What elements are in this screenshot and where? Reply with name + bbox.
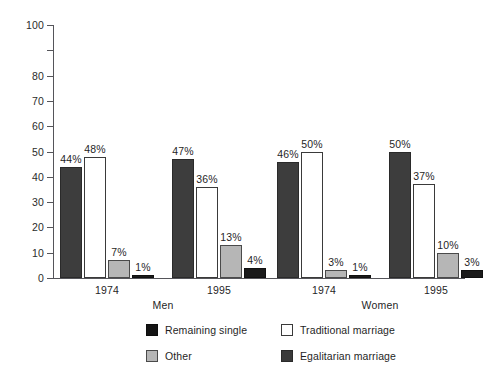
bar [301,152,323,279]
y-axis-tick [47,50,53,51]
x-axis-year-label: 1995 [389,284,483,296]
legend-swatch-icon [146,350,158,362]
y-axis-tick [47,25,53,26]
bar [108,260,130,278]
y-axis-tick-label-text: 60 [14,121,44,131]
x-axis-year-label: 1995 [172,284,266,296]
y-axis-tick-label-text: 0 [14,273,44,283]
bar-chart: 01020304050607080100 44%47%46%50%48%36%5… [0,0,493,382]
y-axis-tick-label: 40 [8,172,44,182]
bar [60,167,82,278]
y-axis-tick [47,177,53,178]
bar-value-label: 10% [434,240,462,251]
bar-value-label: 36% [193,174,221,185]
y-axis-tick-label: 10 [8,248,44,258]
legend-item: Traditional marriage [281,324,395,336]
legend-item: Egalitarian marriage [281,350,396,362]
legend-label: Egalitarian marriage [300,350,396,362]
bar [437,253,459,278]
bar-value-label: 50% [386,139,414,150]
bar-value-label: 3% [458,257,486,268]
plot-area: 01020304050607080100 44%47%46%50%48%36%5… [0,0,493,300]
y-axis-tick [47,76,53,77]
y-axis-tick [47,202,53,203]
bar-value-label: 44% [57,154,85,165]
bar [389,152,411,279]
bar [277,162,299,278]
y-axis-tick-label-text: 70 [14,96,44,106]
y-axis-tick [47,152,53,153]
bar-value-label: 4% [241,255,269,266]
y-axis-tick-label: 0 [8,273,44,283]
legend-label: Remaining single [165,324,247,336]
y-axis-tick-label: 80 [8,71,44,81]
bar [244,268,266,278]
y-axis-tick-label-text: 40 [14,172,44,182]
x-axis-line [53,278,465,279]
y-axis-tick-label: 100 [8,20,44,30]
x-axis-supergroup-label: Men [60,299,266,311]
bar-value-label: 46% [274,149,302,160]
bar [172,159,194,278]
bar [220,245,242,278]
bar [461,270,483,278]
bar-value-label: 48% [81,144,109,155]
y-axis-tick-label-text: 50 [14,147,44,157]
legend-swatch-icon [281,324,293,336]
legend-item: Other [146,350,192,362]
y-axis-tick-label-text: 80 [14,71,44,81]
bar-value-label: 1% [129,262,157,273]
legend-label: Traditional marriage [300,324,395,336]
bar-value-label: 47% [169,146,197,157]
y-axis-line [53,25,54,278]
bar [196,187,218,278]
y-axis-tick-label-text: 30 [14,197,44,207]
y-axis-tick-label-text: 100 [14,20,44,30]
bar-value-label: 7% [105,247,133,258]
chart-legend: Remaining singleTraditional marriageOthe… [0,322,493,382]
bar-value-label: 1% [346,262,374,273]
y-axis-tick-label-text: 20 [14,222,44,232]
x-axis-year-label: 1974 [60,284,154,296]
x-axis-supergroup-label: Women [277,299,483,311]
bar [325,270,347,278]
y-axis-tick [47,278,53,279]
y-axis-tick-label: 20 [8,222,44,232]
y-axis-tick-label: 70 [8,96,44,106]
y-axis-tick-label: 30 [8,197,44,207]
y-axis-tick [47,227,53,228]
y-axis-tick-label: 60 [8,121,44,131]
y-axis-tick [47,126,53,127]
x-axis-year-label: 1974 [277,284,371,296]
y-axis-tick [47,253,53,254]
y-axis-tick-label: 50 [8,147,44,157]
bar-value-label: 13% [217,232,245,243]
bar-value-label: 50% [298,139,326,150]
y-axis-tick [47,101,53,102]
bar [132,275,154,278]
bar [413,184,435,278]
bar-value-label: 37% [410,171,438,182]
y-axis-tick-label-text: 10 [14,248,44,258]
legend-item: Remaining single [146,324,247,336]
bar [84,157,106,278]
legend-swatch-icon [281,350,293,362]
bar [349,275,371,278]
legend-label: Other [165,350,192,362]
legend-swatch-icon [146,324,158,336]
